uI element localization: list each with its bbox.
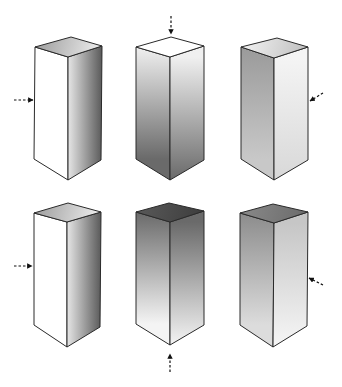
- prism-left-face: [34, 47, 68, 180]
- prism-right-face: [67, 212, 101, 347]
- prism-left-face: [240, 213, 274, 347]
- prism-right-face: [170, 46, 204, 180]
- prism-left-face: [241, 47, 274, 180]
- prism-5: [136, 203, 204, 345]
- prism-right-face: [274, 47, 308, 180]
- light-direction-arrow-icon: [309, 278, 323, 285]
- prism-1: [34, 37, 102, 180]
- prism-left-face: [136, 212, 170, 345]
- prism-group: [34, 37, 308, 347]
- prism-right-face: [170, 211, 204, 345]
- prism-6: [240, 204, 308, 347]
- prism-left-face: [34, 213, 67, 347]
- light-direction-arrow-icon: [310, 93, 323, 101]
- prism-2: [136, 37, 204, 180]
- prism-left-face: [136, 47, 170, 180]
- diagram-canvas: [0, 0, 342, 387]
- prism-4: [34, 203, 101, 347]
- prism-right-face: [68, 46, 102, 180]
- prism-right-face: [273, 212, 308, 347]
- prism-3: [241, 38, 308, 180]
- light-direction-diagram: [0, 0, 342, 387]
